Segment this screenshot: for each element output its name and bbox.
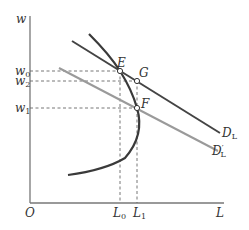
tick-L0: L0 (112, 206, 126, 221)
point-F-label: F (140, 97, 150, 111)
origin-label: O (25, 206, 35, 220)
guide-lines (30, 71, 137, 203)
demand-curve-label: DL (221, 126, 238, 141)
tick-L1: L1 (132, 206, 146, 221)
x-axis-label: L (215, 206, 224, 220)
y-axis-label: w (16, 12, 27, 26)
tick-w1: w1 (15, 101, 30, 116)
diagram-canvas: w L O w0 w2 w1 L0 L1 E G F DL D′L (0, 0, 249, 230)
point-F-marker (134, 105, 139, 110)
point-G-label: G (139, 66, 149, 80)
demand-curve-shifted-label: D′L (211, 143, 226, 159)
point-E-label: E (116, 56, 126, 70)
